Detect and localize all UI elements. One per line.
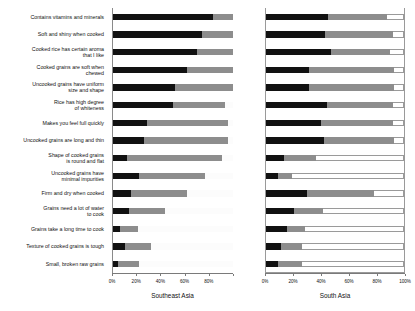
stacked-bar (113, 190, 233, 196)
category-label-line: Firm and dry when cooked (42, 190, 104, 196)
category-label-line: Soft and shiny when cooked (38, 31, 104, 37)
bar-segment-dark (266, 155, 284, 161)
bar-segment-medium (287, 226, 305, 232)
category-label-line: Uncooked grains are long and thin (23, 137, 104, 143)
bar-segment-medium (125, 243, 151, 249)
bar-segment-dark (266, 84, 309, 90)
x-axis-tick (293, 274, 294, 276)
x-axis-tick (112, 274, 113, 276)
category-label-line: Texture of cooked grains is tough (26, 243, 104, 249)
category-label-line: Small, broken raw grains (46, 261, 104, 267)
category-label: Cooked rice has certain aromathat I like (0, 43, 108, 61)
stacked-bar (113, 226, 233, 232)
category-label-line: Contains vitamins and minerals (30, 14, 104, 20)
bar-segment-light (393, 120, 404, 126)
bar-row (266, 149, 404, 167)
bar-segment-light (387, 14, 404, 20)
bar-row (266, 202, 404, 220)
x-axis-tick (321, 274, 322, 276)
bar-segment-light (390, 49, 404, 55)
category-label: Uncooked grains have uniformsize and sha… (0, 79, 108, 97)
category-label-column: Contains vitamins and mineralsSoft and s… (0, 8, 108, 273)
bar-segment-medium (307, 190, 373, 196)
bar-row (266, 79, 404, 97)
category-label: Contains vitamins and minerals (0, 8, 108, 26)
category-label: Uncooked grains haveminimal impurities (0, 167, 108, 185)
bar-segment-light (205, 173, 233, 179)
x-axis-tick (405, 274, 406, 276)
bar-segment-light (393, 31, 404, 37)
bar-segment-dark (266, 67, 309, 73)
x-axis-tick (136, 274, 137, 276)
category-label-line: minimal impurities (51, 176, 104, 182)
bar-row (113, 79, 233, 97)
bar-row (266, 43, 404, 61)
bar-segment-light (305, 226, 404, 232)
bar-segment-medium (324, 137, 394, 143)
bar-segment-medium (327, 102, 393, 108)
x-axis-tick-label: 80% (204, 278, 213, 286)
stacked-bar (266, 190, 404, 196)
category-label: Grains need a lot of waterto cook (0, 202, 108, 220)
stacked-bar (113, 31, 233, 37)
x-axis-tick-label: 80% (372, 278, 381, 286)
category-label: Firm and dry when cooked (0, 185, 108, 203)
stacked-bar (113, 67, 233, 73)
bar-segment-light (139, 261, 233, 267)
stacked-bar (266, 261, 404, 267)
x-axis-tick (349, 274, 350, 276)
bar-segment-medium (331, 49, 390, 55)
x-axis-tick-label: 40% (156, 278, 165, 286)
stacked-bar (266, 120, 404, 126)
bar-row (266, 61, 404, 79)
bar-segment-medium (120, 226, 138, 232)
category-label: Makes you feel full quickly (0, 114, 108, 132)
bar-segment-medium (328, 14, 387, 20)
bar-segment-light (187, 190, 233, 196)
category-label-line: Grains take a long time to cook (31, 226, 104, 232)
x-axis-tick-label: 60% (344, 278, 353, 286)
bar-segment-light (393, 102, 404, 108)
stacked-bar (266, 243, 404, 249)
x-axis-tick-label: 100% (399, 278, 411, 286)
x-axis-tick (160, 274, 161, 276)
bar-segment-medium (325, 31, 393, 37)
category-label-line: Cooked grains are soft when (37, 64, 104, 70)
bar-segment-medium (278, 173, 292, 179)
bar-segment-medium (131, 190, 187, 196)
bar-segment-light (228, 137, 233, 143)
bar-segment-medium (213, 14, 233, 20)
bar-segment-dark (113, 102, 173, 108)
category-label: Texture of cooked grains is tough (0, 238, 108, 256)
bar-row (113, 132, 233, 150)
x-axis-tick (265, 274, 266, 276)
panel-title-southeast-asia: Southeast Asia (112, 290, 233, 301)
bar-row (113, 96, 233, 114)
x-axis-tick-label: 20% (288, 278, 297, 286)
category-label-line: chewed (37, 70, 104, 76)
bar-row (266, 238, 404, 256)
bar-segment-light (302, 243, 404, 249)
x-tick-labels-south-asia: 0%20%40%60%80%100% (265, 278, 405, 287)
bar-segment-dark (113, 190, 131, 196)
stacked-bar (113, 137, 233, 143)
bar-segment-dark (113, 226, 120, 232)
bar-segment-dark (113, 84, 175, 90)
bar-row (266, 114, 404, 132)
panel-southeast-asia: 0%20%40%60%80% Southeast Asia (112, 8, 233, 301)
plot-area-south-asia (265, 8, 405, 273)
bar-row (113, 202, 233, 220)
bar-segment-dark (266, 137, 324, 143)
stacked-bar (266, 155, 404, 161)
category-label: Rice has high degreeof whiteness (0, 96, 108, 114)
bar-segment-dark (113, 14, 213, 20)
bar-row (113, 149, 233, 167)
bar-segment-medium (144, 137, 228, 143)
stacked-bar (113, 84, 233, 90)
x-axis-tick-label: 20% (132, 278, 141, 286)
x-axis-tick-label: 0% (262, 278, 269, 286)
bar-segment-medium (309, 67, 395, 73)
bar-row (113, 238, 233, 256)
bar-segment-dark (113, 208, 129, 214)
category-label: Uncooked grains are long and thin (0, 132, 108, 150)
